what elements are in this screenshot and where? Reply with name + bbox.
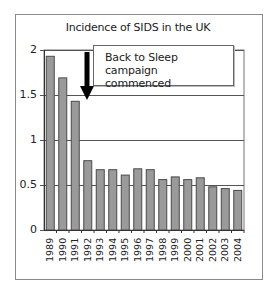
bar-1997: [146, 170, 154, 230]
x-tick-label: 1996: [132, 238, 143, 262]
y-tick-label: 1.5: [11, 88, 37, 101]
bar-1999: [171, 177, 179, 230]
x-tick-label: 1999: [169, 238, 180, 262]
x-tick-label: 2001: [194, 238, 205, 262]
bar-1993: [96, 170, 104, 230]
bar-1994: [109, 170, 117, 230]
bar-1991: [71, 101, 79, 230]
x-tick-label: 1995: [119, 238, 130, 262]
x-tick-label: 2003: [219, 238, 230, 262]
annotation-line-2: commenced: [105, 77, 233, 90]
annotation-arrow-shaft: [85, 52, 90, 88]
bar-1996: [134, 169, 142, 230]
y-tick-label: 1: [11, 133, 37, 146]
x-tick-label: 1990: [57, 238, 68, 262]
x-tick-label: 2004: [232, 238, 243, 262]
y-tick-label: 2: [11, 43, 37, 56]
x-tick-label: 2002: [207, 238, 218, 262]
annotation-arrow-head: [80, 86, 94, 100]
x-tick-label: 2000: [182, 238, 193, 262]
annotation-box: Back to Sleep campaign commenced: [93, 45, 234, 86]
bar-2001: [196, 178, 204, 230]
bar-1990: [59, 78, 67, 230]
bar-1989: [46, 56, 54, 230]
x-tick-label: 1992: [82, 238, 93, 262]
bar-2002: [209, 187, 217, 230]
y-tick-label: 0.5: [11, 178, 37, 191]
x-tick-label: 1991: [69, 238, 80, 262]
x-tick-label: 1998: [157, 238, 168, 262]
bar-1998: [159, 180, 167, 230]
bar-1992: [84, 161, 92, 230]
x-tick-label: 1994: [107, 238, 118, 262]
bar-2000: [184, 180, 192, 230]
x-tick-label: 1997: [144, 238, 155, 262]
y-tick-label: 0: [11, 223, 37, 236]
bar-1995: [121, 175, 129, 230]
bar-2004: [234, 190, 242, 230]
annotation-line-1: Back to Sleep campaign: [105, 51, 233, 77]
x-tick-label: 1993: [94, 238, 105, 262]
bar-2003: [221, 189, 229, 230]
x-tick-label: 1989: [44, 238, 55, 262]
